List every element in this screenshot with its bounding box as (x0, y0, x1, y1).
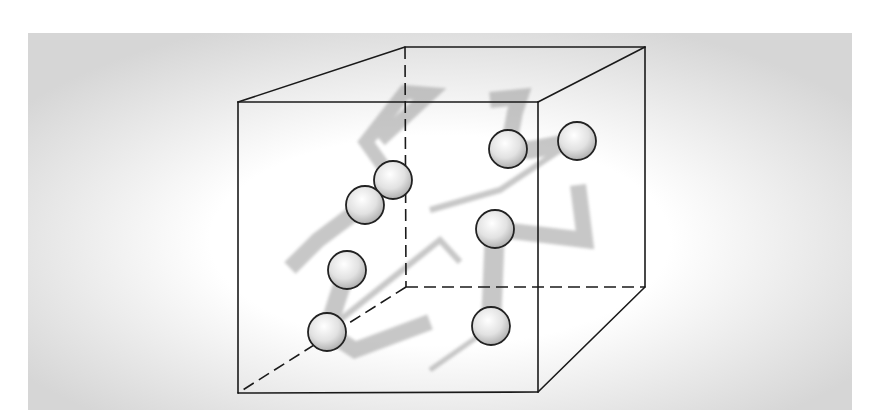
molecule-sphere-m5 (476, 210, 514, 248)
cube-edge (238, 392, 538, 393)
molecule-sphere-m4 (558, 122, 596, 160)
gas-in-box-diagram (0, 0, 883, 420)
molecule-sphere-m3 (489, 130, 527, 168)
molecule-sphere-m7 (308, 313, 346, 351)
molecule-sphere-m6 (328, 251, 366, 289)
molecule-sphere-m8 (472, 307, 510, 345)
molecule-sphere-m2 (346, 186, 384, 224)
